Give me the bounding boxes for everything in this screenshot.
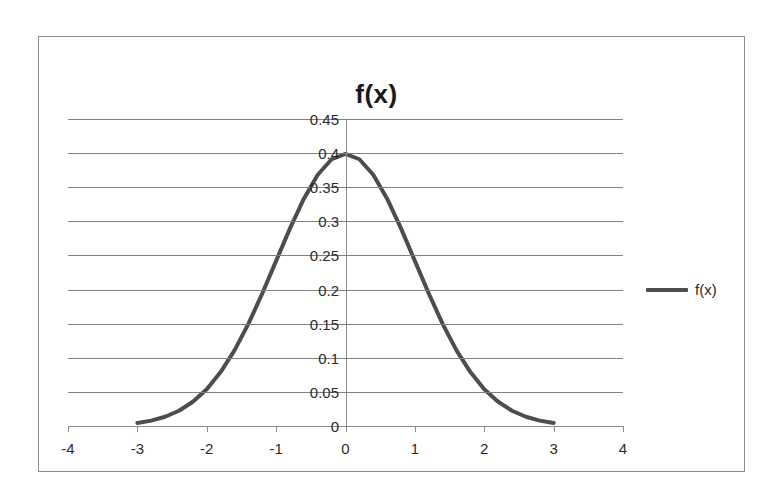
y-axis-tick-label: 0.4 (318, 146, 339, 161)
y-axis-tick-label: 0.2 (318, 282, 339, 297)
legend-swatch-fx (646, 288, 688, 292)
y-axis-tick-label: 0.25 (310, 248, 339, 263)
x-axis-tick (207, 426, 208, 432)
x-axis-tick-label: 1 (385, 441, 445, 456)
gridline (68, 290, 623, 291)
y-axis-tick-label: 0.45 (310, 112, 339, 127)
x-axis-tick (68, 426, 69, 432)
x-axis-tick-label: 2 (454, 441, 514, 456)
chart-screenshot: f(x) 00.050.10.150.20.250.30.350.40.45-4… (0, 0, 777, 498)
chart-legend: f(x) (646, 282, 717, 297)
gridline (68, 187, 623, 188)
y-axis-tick-label: 0.1 (318, 350, 339, 365)
x-axis-tick (554, 426, 555, 432)
x-axis-tick-label: 4 (593, 441, 653, 456)
x-axis-tick (276, 426, 277, 432)
x-axis-tick (415, 426, 416, 432)
gridline (68, 153, 623, 154)
x-axis-tick-label: -4 (38, 441, 98, 456)
x-axis-tick-label: -2 (177, 441, 237, 456)
gridline (68, 119, 623, 120)
value-axis (346, 119, 347, 426)
chart-title: f(x) (23, 79, 730, 110)
gridline (68, 392, 623, 393)
y-axis-tick-label: 0 (331, 419, 339, 434)
x-axis-tick-label: -3 (107, 441, 167, 456)
gridline (68, 221, 623, 222)
y-axis-tick-label: 0.3 (318, 214, 339, 229)
x-axis-tick (484, 426, 485, 432)
x-axis-tick (623, 426, 624, 432)
gridline (68, 324, 623, 325)
y-axis-tick-label: 0.05 (310, 384, 339, 399)
x-axis-tick-label: 3 (524, 441, 584, 456)
plot-area: 00.050.10.150.20.250.30.350.40.45-4-3-2-… (68, 119, 623, 426)
chart-frame: f(x) 00.050.10.150.20.250.30.350.40.45-4… (38, 36, 745, 472)
x-axis-tick-label: -1 (246, 441, 306, 456)
x-axis-tick (137, 426, 138, 432)
x-axis-tick (346, 426, 347, 432)
gridline (68, 255, 623, 256)
x-axis-tick-label: 0 (316, 441, 376, 456)
legend-label-fx: f(x) (695, 282, 717, 297)
y-axis-tick-label: 0.15 (310, 316, 339, 331)
y-axis-tick-label: 0.35 (310, 180, 339, 195)
gridline (68, 358, 623, 359)
